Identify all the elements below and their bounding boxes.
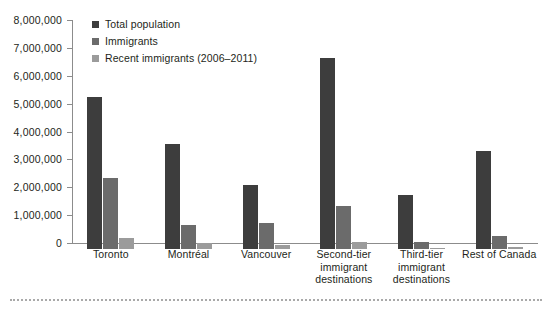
bar bbox=[87, 97, 102, 249]
category-label-line: Vancouver bbox=[227, 248, 305, 261]
x-axis-category-label: Second-tierimmigrantdestinations bbox=[305, 248, 383, 286]
x-axis-category-label: Vancouver bbox=[227, 248, 305, 261]
bar bbox=[320, 58, 335, 249]
bar-chart-figure: Total populationImmigrantsRecent immigra… bbox=[0, 0, 552, 313]
category-label-line: Third-tier bbox=[383, 248, 461, 261]
category-label-line: destinations bbox=[383, 273, 461, 286]
y-axis-tick-label: 0 bbox=[0, 237, 62, 249]
bottom-dotted-divider bbox=[10, 299, 542, 303]
x-axis-category-label: Montréal bbox=[150, 248, 228, 261]
y-axis-tick-label: 6,000,000 bbox=[0, 70, 62, 82]
category-label-line: immigrant bbox=[383, 261, 461, 274]
y-axis-tick-label: 3,000,000 bbox=[0, 153, 62, 165]
bar bbox=[165, 144, 180, 249]
category-label-line: destinations bbox=[305, 273, 383, 286]
y-axis-tick-label: 2,000,000 bbox=[0, 181, 62, 193]
y-axis-tick-label: 1,000,000 bbox=[0, 209, 62, 221]
bar-group bbox=[87, 14, 134, 249]
bar-group bbox=[243, 14, 290, 249]
y-axis-tick-label: 8,000,000 bbox=[0, 14, 62, 26]
y-axis-tick-label: 7,000,000 bbox=[0, 42, 62, 54]
bar-group bbox=[165, 14, 212, 249]
category-label-line: Second-tier bbox=[305, 248, 383, 261]
bar bbox=[243, 185, 258, 249]
x-axis-category-label: Toronto bbox=[72, 248, 150, 261]
category-label-line: Montréal bbox=[150, 248, 228, 261]
bar bbox=[336, 206, 351, 249]
x-axis-category-label: Rest of Canada bbox=[460, 248, 538, 261]
bar bbox=[103, 178, 118, 249]
category-label-line: Rest of Canada bbox=[460, 248, 538, 261]
category-label-line: Toronto bbox=[72, 248, 150, 261]
bar bbox=[181, 225, 196, 249]
y-axis-tick-label: 4,000,000 bbox=[0, 126, 62, 138]
bar bbox=[259, 223, 274, 249]
bar-group bbox=[320, 14, 367, 249]
bar bbox=[398, 195, 413, 249]
bar-group bbox=[476, 14, 523, 249]
y-axis-tick-label: 5,000,000 bbox=[0, 98, 62, 110]
plot-area bbox=[72, 14, 538, 249]
x-axis-category-label: Third-tierimmigrantdestinations bbox=[383, 248, 461, 286]
bar bbox=[476, 151, 491, 249]
category-label-line: immigrant bbox=[305, 261, 383, 274]
bar-group bbox=[398, 14, 445, 249]
